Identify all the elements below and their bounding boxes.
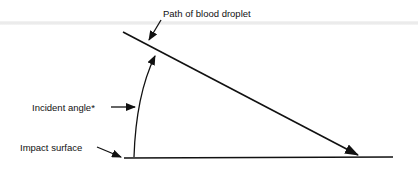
droplet-path-line: [123, 32, 358, 155]
impact-surface-line: [124, 157, 393, 158]
incident-angle-diagram: Path of blood droplet Incident angle* Im…: [0, 0, 418, 172]
path-label-arrow: [149, 20, 161, 40]
angle-label: Incident angle*: [32, 102, 95, 113]
path-label: Path of blood droplet: [163, 8, 251, 19]
incident-angle-arc: [134, 56, 155, 157]
surface-label-arrow: [97, 147, 121, 157]
surface-label: Impact surface: [20, 142, 82, 153]
